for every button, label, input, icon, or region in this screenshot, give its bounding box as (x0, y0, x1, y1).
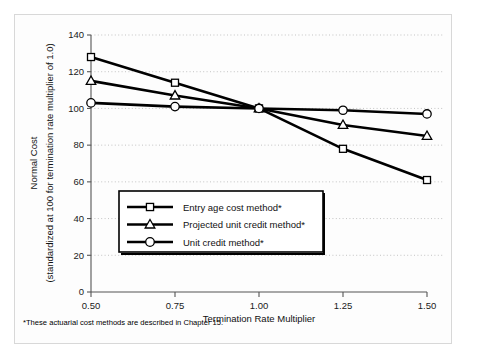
y-tick-label: 60 (73, 176, 84, 187)
chart-canvas: 020406080100120140 0.500.751.001.251.50 … (15, 15, 451, 343)
x-axis-ticks: 0.500.751.001.251.50 (82, 292, 437, 311)
marker-square (340, 145, 347, 152)
figure-frame: 020406080100120140 0.500.751.001.251.50 … (14, 14, 452, 344)
x-tick-label: 1.50 (418, 300, 437, 311)
chart-legend: Entry age cost method*Projected unit cre… (119, 191, 325, 255)
y-tick-label: 20 (73, 250, 84, 261)
series-group (86, 54, 432, 184)
y-axis-title: Normal Cost (28, 136, 39, 189)
y-axis-ticks: 020406080100120140 (68, 29, 91, 297)
legend-label: Projected unit credit method* (183, 219, 305, 230)
marker-circle (339, 106, 347, 114)
y-tick-label: 140 (68, 29, 84, 40)
marker-circle (255, 104, 263, 112)
marker-circle (171, 102, 179, 110)
chart-footnote: *These actuarial cost methods are descri… (23, 318, 223, 327)
x-tick-label: 0.75 (166, 300, 185, 311)
y-axis-title-secondary: (standardized at 100 for termination rat… (44, 43, 55, 282)
series-circle (87, 99, 431, 118)
legend-label: Entry age cost method* (183, 202, 282, 213)
legend-item[interactable]: Unit credit method* (127, 237, 264, 248)
y-tick-label: 120 (68, 66, 84, 77)
marker-square (88, 54, 95, 61)
legend-box-shadow-right (323, 193, 325, 255)
marker-square (146, 203, 153, 210)
y-tick-label: 0 (79, 286, 84, 297)
x-tick-label: 1.00 (250, 300, 269, 311)
legend-label: Unit credit method* (183, 237, 264, 248)
marker-circle (87, 99, 95, 107)
marker-circle (146, 238, 155, 247)
x-tick-label: 1.25 (334, 300, 353, 311)
series-line (91, 57, 427, 180)
y-tick-label: 80 (73, 139, 84, 150)
y-tick-label: 40 (73, 213, 84, 224)
marker-triangle (86, 76, 96, 84)
marker-square (172, 79, 179, 86)
series-square (88, 54, 431, 184)
y-tick-label: 100 (68, 103, 84, 114)
marker-square (424, 177, 431, 184)
x-tick-label: 0.50 (82, 300, 101, 311)
legend-item[interactable]: Entry age cost method* (127, 202, 282, 213)
legend-box-shadow (121, 253, 325, 255)
marker-circle (423, 110, 431, 118)
